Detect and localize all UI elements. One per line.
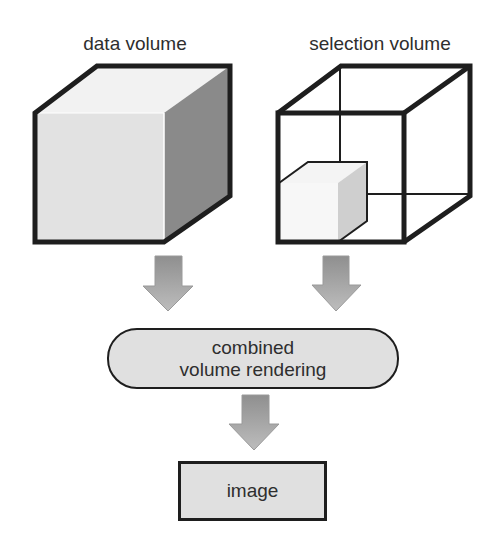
data-volume-label: data volume: [40, 33, 230, 55]
output-label: image: [227, 480, 279, 502]
image-output-node: image: [178, 461, 327, 521]
data-volume-cube-icon: [35, 66, 230, 242]
arrow-down-icon: [229, 395, 279, 450]
arrow-down-icon: [312, 256, 361, 311]
selection-volume-cube-icon: [278, 66, 470, 242]
process-label-line1: combined: [212, 337, 294, 359]
arrow-down-icon: [143, 256, 193, 311]
data-cube-front-face: [35, 113, 164, 242]
combined-volume-rendering-node: combined volume rendering: [107, 328, 399, 389]
process-label-line2: volume rendering: [180, 359, 327, 381]
selection-volume-label: selection volume: [285, 33, 475, 55]
selection-subcube-icon: [279, 162, 367, 242]
